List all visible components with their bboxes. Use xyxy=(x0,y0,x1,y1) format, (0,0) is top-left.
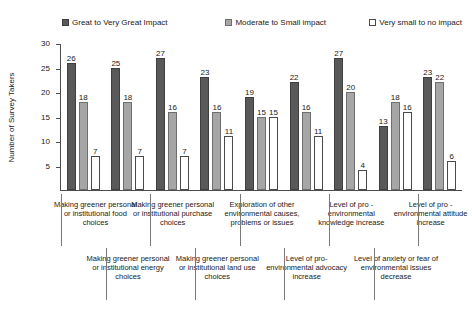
bar: 27 xyxy=(334,58,343,190)
bar: 23 xyxy=(423,77,432,190)
bar: 18 xyxy=(123,102,132,190)
category-separator xyxy=(418,194,419,246)
bar: 15 xyxy=(257,117,266,191)
bar: 16 xyxy=(168,112,177,190)
bar-value-label: 26 xyxy=(67,54,76,63)
legend-swatch-icon xyxy=(62,19,69,26)
bar: 7 xyxy=(91,156,100,190)
legend-label: Moderate to Small impact xyxy=(235,18,326,27)
y-axis-tick-label: 15 xyxy=(41,114,50,122)
y-axis-tick: 5 xyxy=(56,167,60,168)
category-separator xyxy=(106,248,107,300)
category-separator xyxy=(195,248,196,300)
legend-item-moderate-to-small-impact: Moderate to Small impact xyxy=(225,18,369,27)
bar: 19 xyxy=(245,97,254,190)
x-axis-category-labels: Making greener personal or institutional… xyxy=(61,192,463,320)
bar-value-label: 22 xyxy=(290,73,299,82)
y-axis-tick: 20 xyxy=(56,93,60,94)
bar: 22 xyxy=(290,82,299,190)
category-label: Making greener personal or institutional… xyxy=(53,200,138,227)
bar: 18 xyxy=(79,102,88,190)
bar-value-label: 18 xyxy=(79,93,88,102)
bar-value-label: 22 xyxy=(435,73,444,82)
bar: 16 xyxy=(302,112,311,190)
bar: 11 xyxy=(314,136,323,190)
bar: 20 xyxy=(346,92,355,190)
y-axis-tick: 30 xyxy=(56,44,60,45)
bar-value-label: 7 xyxy=(93,147,97,156)
bar-value-label: 23 xyxy=(201,68,210,77)
category-separator xyxy=(374,248,375,300)
y-axis-tick: 25 xyxy=(56,69,60,70)
bar-group: 25187 xyxy=(106,44,151,190)
bar: 23 xyxy=(200,77,209,190)
chart-legend: Great to Very Great Impact Moderate to S… xyxy=(62,16,462,28)
legend-label: Great to Very Great Impact xyxy=(72,18,168,27)
bar-value-label: 25 xyxy=(111,59,120,68)
bar-group: 231611 xyxy=(195,44,240,190)
y-axis-tick-label: 10 xyxy=(41,138,50,146)
bar-group: 23226 xyxy=(418,44,463,190)
bar-value-label: 15 xyxy=(269,108,278,117)
bar: 4 xyxy=(358,170,367,190)
bar-value-label: 6 xyxy=(450,152,454,161)
y-axis-tick-label: 20 xyxy=(41,89,50,97)
category-label: Level of pro - environmental attitude in… xyxy=(388,200,472,227)
legend-item-very-small-to-no-impact: Very small to no impact xyxy=(369,18,462,27)
bar-value-label: 23 xyxy=(423,68,432,77)
bar-group: 191515 xyxy=(239,44,284,190)
category-separator xyxy=(240,194,241,246)
bar: 16 xyxy=(212,112,221,190)
category-label: Making greener personal or institutional… xyxy=(86,254,171,281)
category-label: Making greener personal or institutional… xyxy=(130,200,215,227)
bar-group: 26187 xyxy=(61,44,106,190)
bar-value-label: 15 xyxy=(257,108,266,117)
bar-value-label: 11 xyxy=(225,127,233,136)
bar-value-label: 16 xyxy=(213,103,222,112)
bar-value-label: 4 xyxy=(360,161,364,170)
category-separator xyxy=(61,194,62,246)
bar: 7 xyxy=(135,156,144,190)
bar-value-label: 13 xyxy=(379,117,388,126)
bar-group: 27204 xyxy=(328,44,373,190)
legend-swatch-icon xyxy=(225,19,232,26)
bar: 27 xyxy=(156,58,165,190)
category-label: Making greener personal or institutional… xyxy=(175,254,260,281)
bar: 26 xyxy=(67,63,76,190)
category-separator xyxy=(329,194,330,246)
category-label: Level of anxiety or fear of environmenta… xyxy=(354,254,439,281)
bar: 25 xyxy=(111,68,120,191)
bar: 13 xyxy=(379,126,388,190)
bar: 6 xyxy=(447,161,456,190)
category-label: Level of pro-environmental advocacy incr… xyxy=(264,254,349,281)
bar-value-label: 16 xyxy=(403,103,412,112)
bar: 15 xyxy=(269,117,278,191)
bar-value-label: 16 xyxy=(302,103,311,112)
bar-value-label: 27 xyxy=(334,49,343,58)
bar: 22 xyxy=(435,82,444,190)
category-label: Exploration of other environmental cause… xyxy=(220,200,305,227)
y-axis-tick-label: 5 xyxy=(46,163,50,171)
bar-group: 221611 xyxy=(284,44,329,190)
y-axis-tick-label: 25 xyxy=(41,65,50,73)
bar-chart: Great to Very Great Impact Moderate to S… xyxy=(0,0,472,322)
category-separator xyxy=(284,248,285,300)
bar: 7 xyxy=(180,156,189,190)
y-axis-tick: 15 xyxy=(56,118,60,119)
legend-label: Very small to no impact xyxy=(379,18,462,27)
plot-area: 30252015105 2618725187271672316111915152… xyxy=(60,44,462,191)
bar-value-label: 7 xyxy=(138,147,142,156)
bar-groups: 2618725187271672316111915152216112720413… xyxy=(61,44,462,190)
bar: 18 xyxy=(391,102,400,190)
bar-value-label: 27 xyxy=(156,49,165,58)
bar-value-label: 7 xyxy=(182,147,186,156)
bar: 16 xyxy=(403,112,412,190)
bar-value-label: 19 xyxy=(245,88,254,97)
legend-item-great-to-very-great-impact: Great to Very Great Impact xyxy=(62,18,225,27)
legend-swatch-icon xyxy=(369,19,376,26)
y-axis-tick: 10 xyxy=(56,142,60,143)
bar-value-label: 11 xyxy=(314,127,322,136)
bar-value-label: 20 xyxy=(346,83,355,92)
bar-value-label: 18 xyxy=(123,93,132,102)
category-separator xyxy=(150,194,151,246)
